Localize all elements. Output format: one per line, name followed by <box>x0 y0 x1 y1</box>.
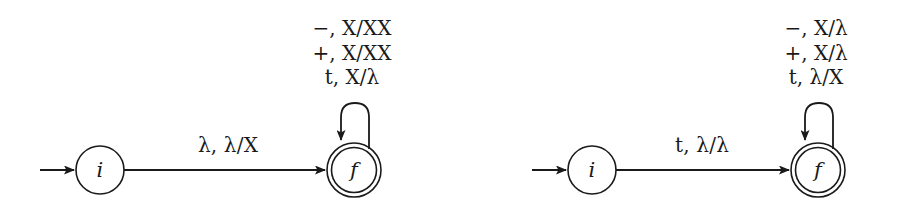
transition-label: λ, λ/X <box>198 135 258 155</box>
self-loop-label-line-2: +, X/XX <box>313 43 392 65</box>
self-loop-label-block: −, X/λ +, X/λ t, λ/X <box>784 18 847 89</box>
state-f-label: f <box>350 160 358 181</box>
self-loop-label-line-1: −, X/λ <box>784 18 847 40</box>
self-loop-label-line-3: t, λ/X <box>784 67 847 89</box>
state-i-label: i <box>97 160 104 181</box>
automaton-left: i f λ, λ/X −, X/XX +, X/XX t, X/λ <box>0 0 450 210</box>
self-loop-label-line-2: +, X/λ <box>784 43 847 65</box>
state-f-label: f <box>814 160 822 181</box>
state-i-label: i <box>589 160 596 181</box>
self-loop-path <box>805 103 833 149</box>
transition-label: t, λ/λ <box>675 135 729 155</box>
figure-canvas: i f λ, λ/X −, X/XX +, X/XX t, X/λ <box>0 0 900 210</box>
self-loop-label-line-1: −, X/XX <box>313 18 392 40</box>
self-loop-path <box>341 103 369 149</box>
self-loop-label-block: −, X/XX +, X/XX t, X/λ <box>313 18 392 89</box>
self-loop-label-line-3: t, X/λ <box>313 67 392 89</box>
automaton-right: i f t, λ/λ −, X/λ +, X/λ t, λ/X <box>450 0 900 210</box>
